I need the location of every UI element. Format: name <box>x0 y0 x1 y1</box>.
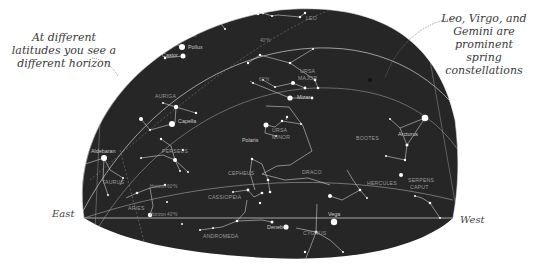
right-annotation-line-1: Leo, Virgo, and <box>436 12 532 25</box>
left-annotation: At different latitudes you see a differe… <box>4 31 124 70</box>
label-perseus: PERSEUS <box>162 148 189 154</box>
label-gemini: GEMINI <box>177 32 197 38</box>
label-horizon-60: Horizon 60°N <box>150 184 177 189</box>
label-serpens-2: CAPUT <box>410 184 429 190</box>
label-bootes: BOOTES <box>356 135 379 141</box>
label-horizon-40: Horizon 40°N <box>150 212 177 217</box>
label-ursa-major-1: URSA <box>300 68 316 74</box>
label-leo: LEO <box>306 15 317 21</box>
right-annotation-line-2: Gemini are <box>436 25 532 38</box>
label-ursa-major-2: MAJOR <box>298 75 317 81</box>
label-cassiopeia: CASSIOPEIA <box>208 194 242 200</box>
label-ursa-minor-1: URSA <box>272 127 288 133</box>
right-annotation-line-3: prominent spring <box>436 38 532 64</box>
label-hercules: HERCULES <box>367 180 397 186</box>
left-annotation-line-1: At different <box>4 31 124 44</box>
label-lat-40: 40°N <box>260 38 270 43</box>
label-polaris: Polaris <box>242 137 259 143</box>
label-draco: DRACO <box>302 169 322 175</box>
label-cygnus: CYGNUS <box>303 230 327 236</box>
label-andromeda: ANDROMEDA <box>203 233 239 239</box>
east-label: East <box>52 208 74 219</box>
left-annotation-line-3: different horizon <box>4 57 124 70</box>
label-taurus: TAURUS <box>102 179 124 185</box>
west-label: West <box>460 214 485 225</box>
label-cepheus: CEPHEUS <box>228 170 255 176</box>
label-mizar: Mizar <box>297 94 310 100</box>
right-annotation: Leo, Virgo, and Gemini are prominent spr… <box>436 12 532 77</box>
right-annotation-line-4: constellations <box>436 64 532 77</box>
label-aries: ARIES <box>128 205 145 211</box>
label-aldebaran: Aldebaran <box>91 148 116 154</box>
label-ursa-minor-2: MINOR <box>272 134 290 140</box>
label-capella: Capella <box>178 118 196 124</box>
label-arcturus: Arcturus <box>398 131 418 137</box>
label-serpens-1: SERPENS <box>408 177 435 183</box>
label-lat-60: 60°N <box>259 77 269 82</box>
label-pollux: Pollux <box>188 44 203 50</box>
label-deneb: Deneb <box>267 224 283 230</box>
label-auriga: AURIGA <box>155 93 176 99</box>
label-vega: Vega <box>328 211 340 217</box>
left-annotation-line-2: latitudes you see a <box>4 44 124 57</box>
